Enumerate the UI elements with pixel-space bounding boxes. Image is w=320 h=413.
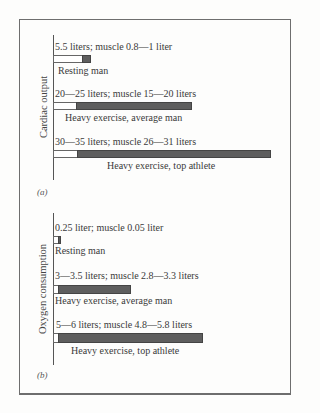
value-label: 30—35 liters; muscle 26—31 liters (55, 136, 196, 147)
bar-muscle (77, 150, 271, 158)
row-caption: Heavy exercise, average man (55, 295, 172, 306)
value-label: 20—25 liters; muscle 15—20 liters (55, 88, 196, 99)
bar-muscle (82, 55, 91, 63)
bar-muscle (58, 236, 61, 244)
bar-other (53, 55, 82, 63)
ylabel-cardiac-output: Cardiac output (38, 76, 49, 138)
bar-other (53, 102, 76, 110)
ylabel-oxygen-consumption: Oxygen consumption (37, 244, 48, 334)
value-label: 5.5 liters; muscle 0.8—1 liter (55, 41, 172, 52)
row-caption: Heavy exercise, top athlete (71, 345, 179, 356)
bar-muscle (58, 285, 131, 294)
bar-other (53, 150, 77, 158)
value-label: 3—3.5 liters; muscle 2.8—3.3 liters (55, 270, 199, 281)
value-label: 0.25 liter; muscle 0.05 liter (55, 222, 163, 233)
value-label: 5—6 liters; muscle 4.8—5.8 liters (56, 319, 192, 330)
row-caption: Heavy exercise, top athlete (107, 160, 215, 171)
row-caption: Heavy exercise, average man (65, 112, 182, 123)
row-caption: Resting man (55, 245, 105, 256)
panel-label-b: (b) (37, 370, 48, 380)
panel-label-a: (a) (37, 187, 48, 197)
row-caption: Resting man (58, 65, 108, 76)
bar-muscle (76, 102, 192, 110)
bar-muscle (58, 333, 203, 343)
